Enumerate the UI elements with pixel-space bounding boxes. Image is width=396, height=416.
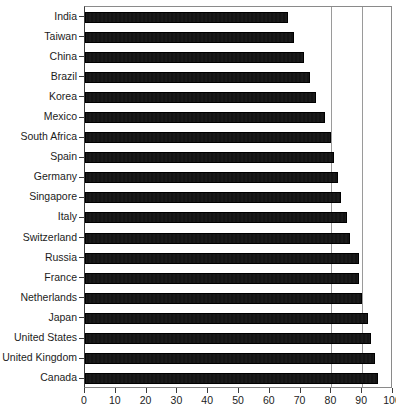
plot-area [84,6,392,388]
bar[interactable] [85,12,288,23]
x-axis-label: 0 [81,394,87,406]
x-axis-tick [207,388,208,393]
bar-slot [85,7,391,27]
x-axis-tick [238,388,239,393]
bar[interactable] [85,152,334,163]
x-axis-tick [330,388,331,393]
bar-slot [85,188,391,208]
x-axis-label: 90 [355,394,367,406]
bar[interactable] [85,353,375,364]
y-axis-row: United Kingdom [0,348,84,368]
bar-slot [85,87,391,107]
y-axis-label: United Kingdom [2,352,84,363]
bar-slot [85,67,391,87]
x-axis: 0102030405060708090100 [84,388,392,414]
bar-slot [85,349,391,369]
bar-slot [85,208,391,228]
bar[interactable] [85,132,331,143]
y-axis-row: Taiwan [0,26,84,46]
chart-title [84,0,392,3]
bar-slot [85,248,391,268]
y-axis-row: Russia [0,247,84,267]
x-axis-tick [361,388,362,393]
y-axis-row: South Africa [0,127,84,147]
bar-chart: IndiaTaiwanChinaBrazilKoreaMexicoSouth A… [0,0,396,416]
y-axis-row: Germany [0,167,84,187]
x-axis-tick [392,388,393,393]
bar-slot [85,128,391,148]
y-axis-label: Canada [40,372,84,383]
bar-slot [85,228,391,248]
y-axis: IndiaTaiwanChinaBrazilKoreaMexicoSouth A… [0,6,84,388]
y-axis-label: Switzerland [23,232,84,243]
y-axis-row: Switzerland [0,227,84,247]
y-axis-label: United States [14,332,84,343]
y-axis-row: United States [0,328,84,348]
bar-slot [85,27,391,47]
y-axis-row: Spain [0,147,84,167]
x-axis-label: 40 [201,394,213,406]
x-axis-label: 50 [232,394,244,406]
bar-slot [85,168,391,188]
bar[interactable] [85,52,304,63]
y-axis-label: Mexico [44,111,84,122]
bar[interactable] [85,172,338,183]
y-axis-label: Germany [34,171,84,182]
x-axis-tick [115,388,116,393]
x-axis-tick [300,388,301,393]
x-axis-tick [146,388,147,393]
y-axis-label: South Africa [20,131,84,142]
y-axis-row: India [0,6,84,26]
bar[interactable] [85,32,294,43]
bar[interactable] [85,293,362,304]
x-axis-label: 10 [109,394,121,406]
y-axis-row: France [0,267,84,287]
bar-slot [85,288,391,308]
bar[interactable] [85,72,310,83]
bar-slot [85,107,391,127]
bar[interactable] [85,92,316,103]
bar[interactable] [85,192,341,203]
bar-slot [85,308,391,328]
bar[interactable] [85,333,371,344]
x-axis-label: 30 [171,394,183,406]
x-axis-tick [84,388,85,393]
x-axis-label: 60 [263,394,275,406]
y-axis-label: Netherlands [20,292,84,303]
x-axis-label: 80 [325,394,337,406]
bar-slot [85,47,391,67]
x-axis-tick [176,388,177,393]
y-axis-row: Japan [0,307,84,327]
bar-series [85,7,391,387]
bar[interactable] [85,253,359,264]
y-axis-row: Canada [0,368,84,388]
y-axis-row: China [0,46,84,66]
x-axis-tick [269,388,270,393]
bar-slot [85,148,391,168]
bar[interactable] [85,112,325,123]
y-axis-row: Netherlands [0,287,84,307]
y-axis-label: Singapore [29,191,84,202]
y-axis-row: Mexico [0,106,84,126]
y-axis-row: Korea [0,86,84,106]
y-axis-row: Italy [0,207,84,227]
x-axis-label: 100 [383,394,396,406]
bar-slot [85,268,391,288]
bar[interactable] [85,313,368,324]
bar[interactable] [85,373,378,384]
y-axis-row: Brazil [0,66,84,86]
bar[interactable] [85,212,347,223]
x-axis-label: 70 [294,394,306,406]
x-axis-label: 20 [140,394,152,406]
bar-slot [85,329,391,349]
y-axis-row: Singapore [0,187,84,207]
bar-slot [85,369,391,389]
bar[interactable] [85,273,359,284]
bar[interactable] [85,233,350,244]
